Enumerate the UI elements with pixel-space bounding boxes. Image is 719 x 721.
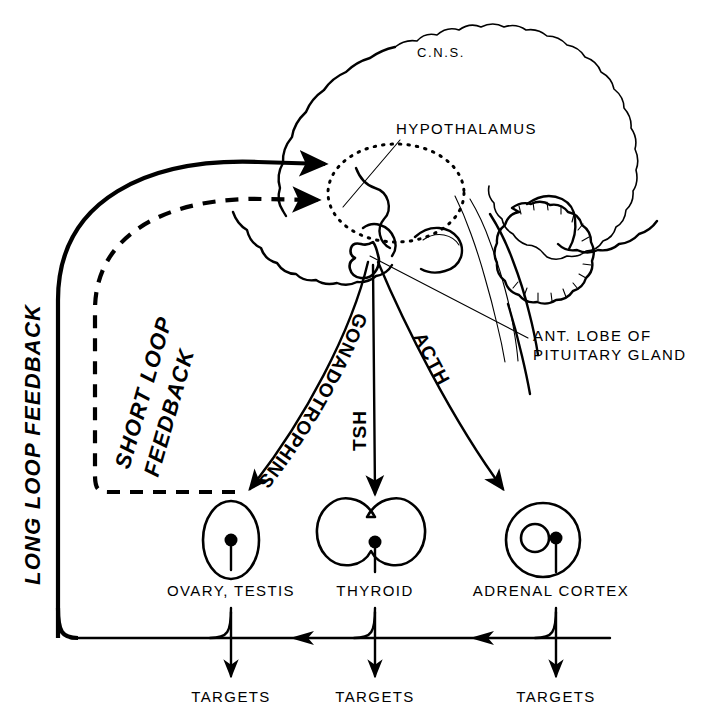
pituitary-label-line2: PITUITARY GLAND <box>533 346 687 363</box>
cns-label: C.N.S. <box>417 45 465 60</box>
adrenal-cortex-label: ADRENAL CORTEX <box>473 582 629 599</box>
ovary-testis-label: OVARY, TESTIS <box>167 582 295 599</box>
adrenal-inner-circle <box>521 524 549 552</box>
endocrine-feedback-diagram: C.N.S. HYPOTHALAMUS ANT. LOBE OF PITUITA… <box>0 0 719 721</box>
diagram-canvas: C.N.S. HYPOTHALAMUS ANT. LOBE OF PITUITA… <box>0 0 719 721</box>
thyroid-label: THYROID <box>336 582 413 599</box>
target-organs-group: OVARY, TESTIS THYROID ADRENAL CORTEX <box>167 498 629 599</box>
pituitary-label-line1: ANT. LOBE OF <box>533 327 652 344</box>
targets-label-thyroid: TARGETS <box>335 688 415 705</box>
targets-label-gonad: TARGETS <box>191 688 271 705</box>
long-loop-feedback-label: LONG LOOP FEEDBACK <box>20 303 45 585</box>
tsh-label: TSH <box>349 410 370 451</box>
hypothalamus-label: HYPOTHALAMUS <box>396 120 537 137</box>
targets-label-adrenal: TARGETS <box>516 688 596 705</box>
